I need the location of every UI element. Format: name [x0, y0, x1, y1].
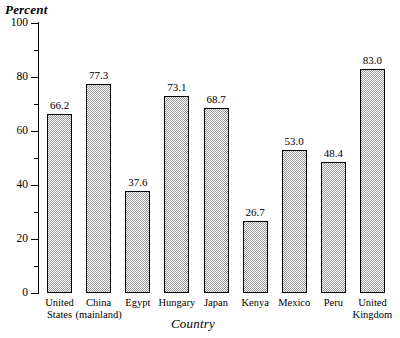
x-tick-label: UnitedKingdom — [344, 297, 400, 321]
bar-value-label: 48.4 — [308, 148, 358, 159]
bar-value-label: 83.0 — [347, 55, 397, 66]
y-tick-label: 0 — [2, 287, 28, 299]
y-tick-major — [31, 23, 39, 24]
y-tick-label: 40 — [2, 179, 28, 191]
bar — [125, 191, 150, 293]
bar-value-label: 77.3 — [74, 70, 124, 81]
bar — [164, 96, 189, 293]
bar — [243, 221, 268, 293]
bar-value-label: 66.2 — [35, 100, 85, 111]
bar — [321, 162, 346, 293]
y-tick-minor — [34, 212, 39, 213]
y-tick-label: 100 — [2, 17, 28, 29]
y-tick-minor — [34, 50, 39, 51]
y-tick-major — [31, 77, 39, 78]
y-tick-label: 80 — [2, 71, 28, 83]
bar — [282, 150, 307, 293]
bar-chart: Percent 020406080100 Country 66.2UnitedS… — [0, 0, 400, 338]
y-tick-major — [31, 185, 39, 186]
y-tick-minor — [34, 158, 39, 159]
bar-value-label: 26.7 — [230, 207, 280, 218]
x-tick-label-line: Kingdom — [344, 309, 400, 321]
y-tick-label: 60 — [2, 125, 28, 137]
bar — [204, 108, 229, 293]
y-tick-major — [31, 293, 39, 294]
y-tick-major — [31, 239, 39, 240]
x-tick-label-line: (mainland) — [71, 309, 127, 321]
x-tick-label-line: United — [344, 297, 400, 309]
bar-value-label: 37.6 — [113, 177, 163, 188]
bar-value-label: 68.7 — [191, 94, 241, 105]
bar — [47, 114, 72, 293]
y-tick-label: 20 — [2, 233, 28, 245]
bar-value-label: 73.1 — [152, 82, 202, 93]
y-tick-minor — [34, 266, 39, 267]
bar-value-label: 53.0 — [269, 136, 319, 147]
bar — [86, 84, 111, 293]
y-tick-major — [31, 131, 39, 132]
bar — [360, 69, 385, 293]
